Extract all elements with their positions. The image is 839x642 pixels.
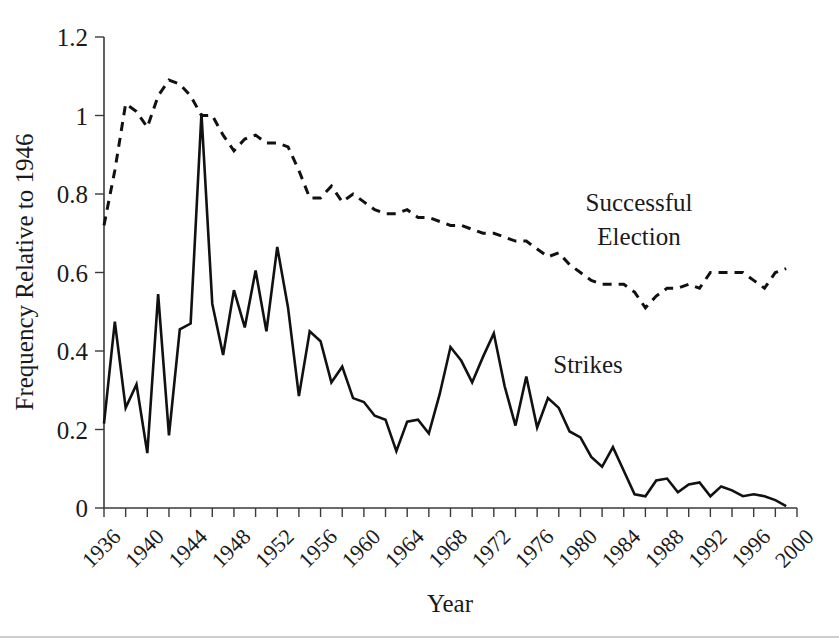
x-tick-label: 1996 <box>726 524 775 573</box>
y-tick-label: 1.2 <box>57 24 88 51</box>
y-tick-label: 0.2 <box>57 417 88 444</box>
x-tick-label: 1968 <box>423 524 472 573</box>
y-axis-tick-labels: 00.20.40.60.811.2 <box>57 24 89 522</box>
x-tick-label: 1936 <box>77 524 126 573</box>
annotation-successful-election-line1: Successful <box>586 189 693 216</box>
x-tick-label: 1948 <box>207 524 256 573</box>
line-chart: 00.20.40.60.811.2 1936194019441948195219… <box>0 0 839 642</box>
y-tick-label: 0.6 <box>57 260 88 287</box>
y-axis-ticks <box>95 37 104 508</box>
y-axis-title: Frequency Relative to 1946 <box>11 133 38 410</box>
x-tick-label: 1956 <box>293 524 342 573</box>
x-tick-label: 1992 <box>683 524 732 573</box>
y-tick-label: 0.8 <box>57 181 88 208</box>
x-tick-label: 1976 <box>510 524 559 573</box>
x-tick-label: 1984 <box>596 524 645 573</box>
x-tick-label: 1952 <box>250 524 299 573</box>
x-axis-ticks <box>104 508 797 517</box>
y-tick-label: 0 <box>76 495 89 522</box>
x-tick-label: 1988 <box>640 524 689 573</box>
annotation-strikes: Strikes <box>553 351 622 378</box>
x-axis-title: Year <box>427 590 474 617</box>
x-tick-label: 1940 <box>120 524 169 573</box>
x-tick-label: 1944 <box>163 524 212 573</box>
x-tick-label: 1980 <box>553 524 602 573</box>
x-tick-label: 1972 <box>467 524 516 573</box>
x-tick-label: 1964 <box>380 524 429 573</box>
annotation-successful-election-line2: Election <box>597 223 681 250</box>
series-line-strikes <box>104 114 786 507</box>
x-tick-label: 2000 <box>770 524 819 573</box>
x-tick-label: 1960 <box>337 524 386 573</box>
chart-figure: 00.20.40.60.811.2 1936194019441948195219… <box>0 0 839 642</box>
y-tick-label: 0.4 <box>57 338 89 365</box>
page-bottom-rule <box>0 636 839 638</box>
y-tick-label: 1 <box>76 103 89 130</box>
x-axis-tick-labels: 1936194019441948195219561960196419681972… <box>77 524 819 573</box>
